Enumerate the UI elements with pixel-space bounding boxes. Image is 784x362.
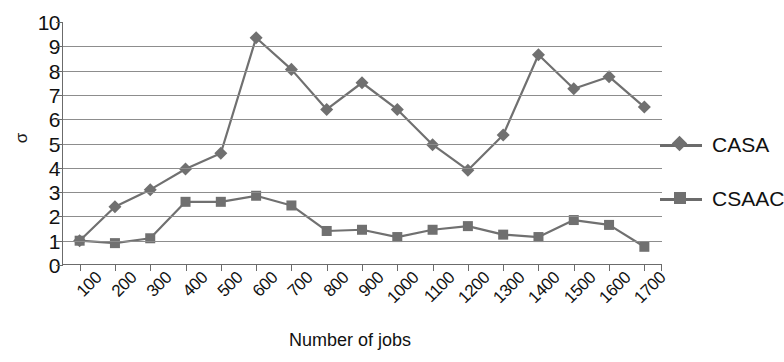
data-point-square — [110, 238, 120, 248]
gridline — [62, 192, 662, 193]
x-axis-tick-label: 800 — [319, 268, 352, 301]
x-axis-tick-label: 1400 — [525, 268, 565, 308]
legend-label-casa: CASA — [712, 133, 769, 157]
y-axis-tick — [56, 144, 63, 145]
data-point-square — [604, 220, 614, 230]
data-point-square — [463, 221, 473, 231]
legend-square-marker-icon — [660, 192, 702, 206]
data-point-square — [639, 242, 649, 252]
y-axis-tick — [56, 265, 63, 266]
gridline — [62, 241, 662, 242]
x-axis-tick-label: 700 — [284, 268, 317, 301]
y-axis-tick — [56, 241, 63, 242]
series-casa — [73, 31, 651, 247]
gridline — [62, 95, 662, 96]
data-point-diamond — [144, 183, 157, 196]
y-axis-tick — [56, 192, 63, 193]
y-axis-tick — [56, 22, 63, 23]
x-axis-tick-label: 200 — [108, 268, 141, 301]
x-axis-tick-label: 500 — [214, 268, 247, 301]
x-axis-tick-label: 1700 — [631, 268, 671, 308]
y-axis-tick — [56, 119, 63, 120]
legend-label-csaac: CSAAC — [712, 187, 784, 211]
data-point-square — [216, 197, 226, 207]
x-axis-tick-label: 600 — [249, 268, 282, 301]
data-point-square — [145, 233, 155, 243]
x-axis-tick-label: 1200 — [454, 268, 494, 308]
x-axis-tick-label: 1500 — [560, 268, 600, 308]
gridline — [62, 216, 662, 217]
data-point-square — [181, 197, 191, 207]
x-axis-tick-labels: 1002003004005006007008009001000110012001… — [62, 268, 682, 338]
x-axis-tick-label: 300 — [143, 268, 176, 301]
x-axis-tick-label: 100 — [72, 268, 105, 301]
data-point-square — [428, 225, 438, 235]
x-axis-tick-label: 400 — [178, 268, 211, 301]
plot-area — [62, 22, 662, 265]
legend-diamond-marker-icon — [660, 138, 702, 152]
y-axis-tick — [56, 46, 63, 47]
y-axis-tick-labels: 012345678910 — [22, 0, 60, 362]
gridline — [62, 119, 662, 120]
legend-item-csaac: CSAAC — [660, 172, 780, 226]
x-axis-tick-label: 1600 — [595, 268, 635, 308]
series-line — [80, 196, 645, 247]
x-axis-tick-label: 900 — [355, 268, 388, 301]
data-point-diamond — [179, 163, 192, 176]
y-axis-tick — [56, 168, 63, 169]
y-axis-tick — [56, 95, 63, 96]
legend-item-casa: CASA — [660, 118, 780, 172]
x-axis-tick-label: 1100 — [420, 268, 459, 307]
gridline — [62, 46, 662, 47]
data-point-diamond — [214, 147, 227, 160]
gridline — [62, 144, 662, 145]
gridline — [62, 168, 662, 169]
data-point-square — [357, 225, 367, 235]
data-point-square — [498, 230, 508, 240]
gridline — [62, 71, 662, 72]
series-line — [80, 38, 645, 241]
y-axis-tick — [56, 216, 63, 217]
data-point-square — [322, 226, 332, 236]
data-point-square — [286, 200, 296, 210]
x-axis-title: Number of jobs — [0, 330, 700, 351]
x-axis-tick-label: 1000 — [384, 268, 424, 308]
chart-legend: CASA CSAAC — [660, 118, 780, 226]
series-csaac — [75, 191, 650, 252]
x-axis-tick-label: 1300 — [490, 268, 530, 308]
y-axis-tick — [56, 71, 63, 72]
